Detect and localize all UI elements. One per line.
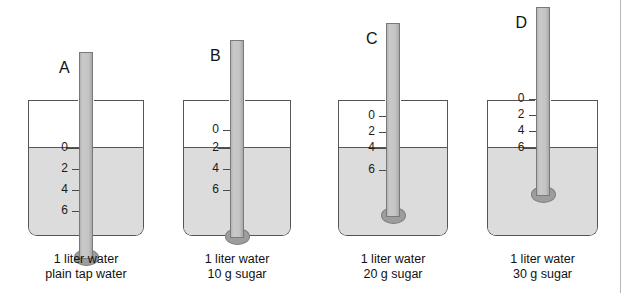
scale-tick [379,170,386,171]
setup-letter-label: B [210,48,221,64]
scale-tick [223,130,230,131]
scale-tick [379,116,386,117]
hydrometer-tube [386,23,400,217]
scale-label-6: 6 [54,204,68,216]
scale-label-4: 4 [361,141,375,153]
scale-label-6: 6 [205,183,219,195]
scale-tick [529,115,536,116]
beaker-rim [28,100,78,101]
scale-tick [529,131,536,132]
scale-tick [72,169,79,170]
setup-letter-label: A [59,60,70,76]
beaker-rim [183,100,229,101]
beaker-rim [94,100,144,101]
scale-label-2: 2 [54,162,68,174]
scale-label-6: 6 [511,141,525,153]
setup-caption: 1 liter water10 g sugar [157,252,317,282]
hydrometer-tube [79,52,93,259]
setup-caption: 1 liter waterplain tap water [6,252,166,282]
scale-label-0: 0 [361,109,375,121]
setup-caption: 1 liter water30 g sugar [463,252,623,282]
scale-label-2: 2 [205,141,219,153]
figure-canvas: 0246A1 liter waterplain tap water0246B1 … [0,0,627,293]
scale-label-0: 0 [511,92,525,104]
hydrometer-tube [230,40,244,238]
caption-line-2: 30 g sugar [463,267,623,282]
caption-line-1: 1 liter water [463,252,623,267]
scale-label-2: 2 [511,108,525,120]
beaker-rim [338,100,385,101]
scale-tick [72,190,79,191]
caption-line-2: 10 g sugar [157,267,317,282]
scale-label-4: 4 [511,124,525,136]
scale-label-0: 0 [205,123,219,135]
scale-tick [379,132,386,133]
scale-tick [529,99,536,100]
scale-tick [223,169,230,170]
scale-tick [72,211,79,212]
caption-line-1: 1 liter water [313,252,473,267]
caption-line-1: 1 liter water [6,252,166,267]
setup-caption: 1 liter water20 g sugar [313,252,473,282]
beaker-rim [551,100,599,101]
beaker-rim [245,100,291,101]
caption-line-2: 20 g sugar [313,267,473,282]
scale-label-2: 2 [361,125,375,137]
caption-line-1: 1 liter water [157,252,317,267]
scale-label-0: 0 [54,141,68,153]
beaker-rim [401,100,448,101]
setup-letter-label: C [366,31,378,47]
caption-line-2: plain tap water [6,267,166,282]
setup-letter-label: D [516,15,528,31]
scale-label-4: 4 [54,183,68,195]
page-border-rule [620,0,621,293]
hydrometer-tube [536,7,550,196]
scale-label-6: 6 [361,163,375,175]
scale-tick [223,190,230,191]
scale-label-4: 4 [205,162,219,174]
